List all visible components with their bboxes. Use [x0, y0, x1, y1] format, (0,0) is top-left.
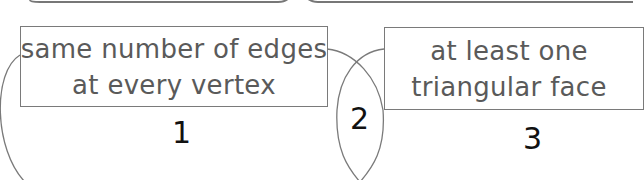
previous-box-right-edge	[305, 0, 633, 2]
region-3-number: 3	[523, 124, 542, 154]
set-b-label: at least one triangular face	[384, 27, 644, 110]
set-b-label-line-2: triangular face	[411, 69, 607, 105]
region-2-number: 2	[350, 104, 369, 134]
previous-box-left-edge	[30, 0, 290, 2]
set-a-label-line-2: at every vertex	[72, 67, 276, 103]
set-a-label-line-1: same number of edges	[21, 31, 328, 67]
set-b-label-line-1: at least one	[430, 33, 588, 69]
set-a-label: same number of edges at every vertex	[20, 26, 328, 107]
region-1-number: 1	[172, 118, 191, 148]
